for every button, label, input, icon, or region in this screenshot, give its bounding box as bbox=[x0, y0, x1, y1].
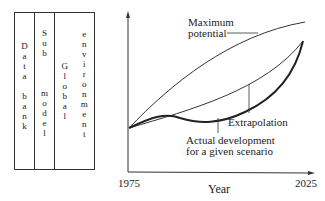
extrapolation-label: Extrapolation bbox=[228, 117, 288, 128]
scenario-chart bbox=[0, 0, 325, 201]
x-axis-label: Year bbox=[208, 184, 230, 195]
x-axis bbox=[128, 172, 310, 173]
extrapolation-curve bbox=[129, 41, 303, 128]
actual-development-curve bbox=[129, 41, 303, 128]
x-tick-2025: 2025 bbox=[295, 178, 317, 189]
actual-label-line2: for a given scenario bbox=[186, 146, 273, 157]
max-potential-label-line2: potential bbox=[188, 28, 227, 39]
y-axis-arrow-icon bbox=[126, 11, 130, 18]
x-tick-1975: 1975 bbox=[118, 178, 140, 189]
x-axis-arrow-icon bbox=[308, 171, 315, 175]
